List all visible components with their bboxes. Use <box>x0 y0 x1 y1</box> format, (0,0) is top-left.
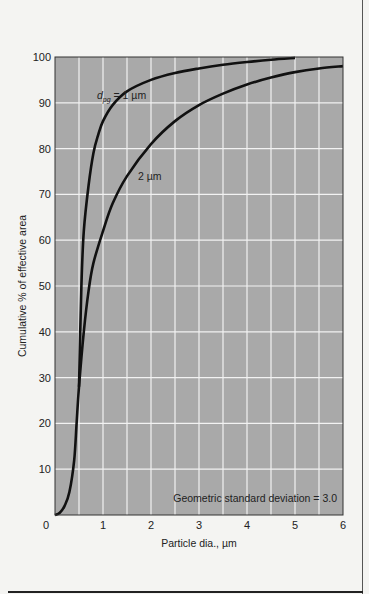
x-tick-label: 2 <box>148 519 154 531</box>
x-tick-label: 1 <box>100 519 106 531</box>
y-tick-label: 60 <box>39 234 51 246</box>
y-tick-label: 20 <box>39 417 51 429</box>
x-tick-labels: 0123456 <box>43 519 346 531</box>
x-tick-label: 6 <box>340 519 346 531</box>
y-tick-label: 30 <box>39 372 51 384</box>
y-tick-label: 40 <box>39 326 51 338</box>
x-tick-label: 5 <box>292 519 298 531</box>
y-tick-label: 100 <box>33 51 51 63</box>
annotation-gsd: Geometric standard deviation = 3.0 <box>173 492 337 504</box>
y-tick-labels: 102030405060708090100 <box>33 51 51 475</box>
y-tick-label: 50 <box>39 280 51 292</box>
x-tick-label: 3 <box>196 519 202 531</box>
y-axis-label: Cumulative % of effective area <box>16 215 28 357</box>
series-label-2um: 2 µm <box>138 170 162 182</box>
x-tick-label: 0 <box>43 519 49 531</box>
y-tick-label: 10 <box>39 463 51 475</box>
y-tick-label: 90 <box>39 97 51 109</box>
chart: 102030405060708090100 0123456 Cumulative… <box>0 0 369 594</box>
x-tick-label: 4 <box>244 519 250 531</box>
y-tick-label: 80 <box>39 143 51 155</box>
y-tick-label: 70 <box>39 188 51 200</box>
x-axis-label: Particle dia., µm <box>161 537 237 549</box>
